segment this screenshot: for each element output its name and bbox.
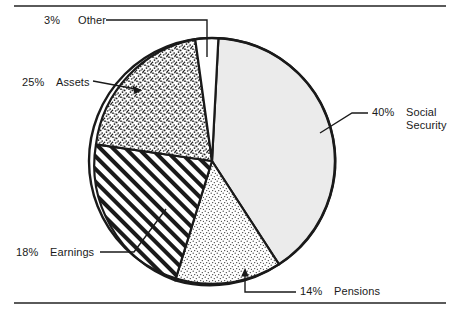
pie-graphic	[0, 0, 460, 318]
callout-label-social-security: 40%SocialSecurity	[372, 106, 447, 132]
pie-slice-assets	[96, 39, 212, 161]
callout-percent-earnings: 18%	[16, 246, 42, 259]
callout-percent-social-security: 40%	[372, 106, 398, 119]
pie-chart-figure: 3%Other 25%Assets 18%Earnings 14%Pension…	[0, 0, 460, 318]
callout-label-pensions: 14%Pensions	[300, 285, 380, 298]
callout-name-other: Other	[78, 14, 106, 27]
callout-name-pensions: Pensions	[334, 285, 380, 298]
callout-label-assets: 25%Assets	[22, 76, 90, 89]
callout-percent-pensions: 14%	[300, 285, 326, 298]
callout-label-other: 3%Other	[44, 14, 106, 27]
callout-label-earnings: 18%Earnings	[16, 246, 94, 259]
callout-name-social-security-line2: Security	[406, 119, 447, 132]
callout-percent-assets: 25%	[22, 76, 48, 89]
callout-name-assets: Assets	[56, 76, 90, 89]
callout-name-social-security-line1: Social	[406, 106, 447, 119]
callout-name-earnings: Earnings	[50, 246, 94, 259]
callout-percent-other: 3%	[44, 14, 70, 27]
